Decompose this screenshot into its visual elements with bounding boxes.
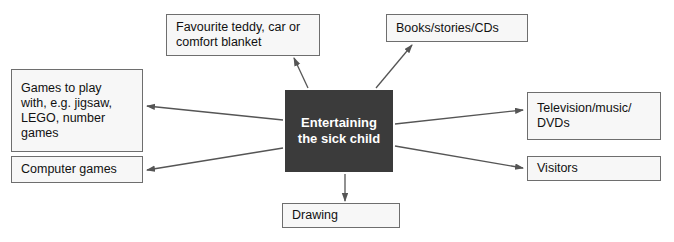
center-label: Entertaining the sick child — [298, 115, 380, 147]
arrow-center-to-tv — [395, 110, 523, 124]
arrow-center-to-books — [376, 45, 412, 88]
spider-diagram: Favourite teddy, car or comfort blanket … — [0, 0, 674, 242]
node-games-to-play[interactable]: Games to play with, e.g. jigsaw, LEGO, n… — [11, 69, 143, 152]
node-label: Games to play with, e.g. jigsaw, LEGO, n… — [21, 81, 112, 141]
node-drawing[interactable]: Drawing — [282, 203, 400, 228]
node-favourite-teddy[interactable]: Favourite teddy, car or comfort blanket — [166, 14, 320, 56]
arrow-center-to-games — [147, 106, 283, 120]
node-computer-games[interactable]: Computer games — [11, 156, 143, 183]
node-label: Drawing — [292, 208, 338, 223]
node-visitors[interactable]: Visitors — [527, 156, 661, 181]
node-television-music-dvds[interactable]: Television/music/ DVDs — [527, 92, 661, 140]
node-label: Visitors — [537, 161, 578, 176]
arrow-center-to-visitors — [395, 146, 523, 168]
arrow-center-to-computer — [147, 148, 283, 170]
node-books-stories-cds[interactable]: Books/stories/CDs — [386, 14, 528, 42]
arrow-center-to-teddy — [294, 58, 308, 88]
node-center-entertaining-the-sick-child[interactable]: Entertaining the sick child — [285, 90, 393, 172]
node-label: Television/music/ DVDs — [537, 101, 631, 131]
node-label: Computer games — [21, 162, 117, 177]
node-label: Books/stories/CDs — [396, 21, 499, 36]
node-label: Favourite teddy, car or comfort blanket — [176, 20, 300, 50]
